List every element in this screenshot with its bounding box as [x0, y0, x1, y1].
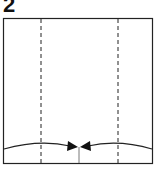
left-fold-arrow-arc: [4, 143, 70, 149]
left-arrowhead-icon: [67, 141, 78, 151]
right-fold-arrow-arc: [88, 143, 152, 149]
paper-square: [4, 19, 153, 164]
right-arrowhead-icon: [80, 141, 91, 151]
fold-diagram: [0, 0, 156, 178]
